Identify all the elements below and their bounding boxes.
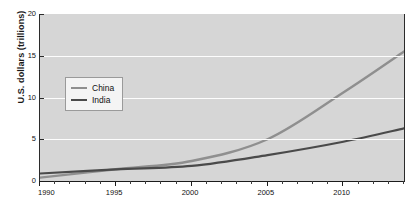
x-tick-minor [297,181,298,184]
x-tick-minor [160,181,161,184]
y-tick-label: 15 [20,52,36,60]
x-tick-minor [282,181,283,184]
x-tick-minor [85,181,86,184]
x-tick-minor [312,181,313,184]
x-tick-major [342,181,343,186]
x-tick-minor [69,181,70,184]
chart-legend: ChinaIndia [65,77,123,111]
x-tick-minor [206,181,207,184]
x-tick-minor [327,181,328,184]
x-tick-label: 2005 [258,188,275,197]
y-axis-tick-labels: 05101520 [16,0,36,206]
y-tick-mark [40,56,44,57]
y-tick-label: 20 [20,10,36,18]
x-tick-minor [388,181,389,184]
x-tick-major [267,181,268,186]
legend-item-india[interactable]: India [71,94,114,106]
x-tick-minor [358,181,359,184]
gridline [40,56,404,57]
x-tick-minor [100,181,101,184]
y-tick-label: 5 [20,135,36,143]
x-tick-minor [176,181,177,184]
x-tick-minor [236,181,237,184]
y-tick-label: 0 [20,177,36,185]
chart-title-clipped [38,0,338,5]
x-axis-tick-labels: 19901995200020052010 [39,188,403,200]
legend-label: China [92,83,114,93]
legend-swatch-icon [71,87,87,90]
x-tick-label: 2010 [333,188,350,197]
y-tick-mark [40,139,44,140]
x-tick-major [39,181,40,186]
gridline [40,139,404,140]
x-tick-minor [373,181,374,184]
legend-label: India [92,95,110,105]
series-line-india [40,128,404,173]
x-tick-label: 1995 [106,188,123,197]
x-tick-minor [130,181,131,184]
x-tick-minor [403,181,404,184]
legend-swatch-icon [71,99,87,102]
x-tick-minor [251,181,252,184]
y-tick-mark [40,98,44,99]
chart-figure: U.S. dollars (trillions) 05101520 199019… [0,0,413,206]
y-tick-label: 10 [20,94,36,102]
x-tick-major [115,181,116,186]
legend-item-china[interactable]: China [71,82,114,94]
series-line-china [40,52,404,178]
x-tick-label: 2000 [182,188,199,197]
x-tick-label: 1990 [38,188,55,197]
y-tick-mark [40,14,44,15]
x-tick-major [191,181,192,186]
x-tick-minor [145,181,146,184]
x-tick-minor [221,181,222,184]
x-tick-minor [54,181,55,184]
